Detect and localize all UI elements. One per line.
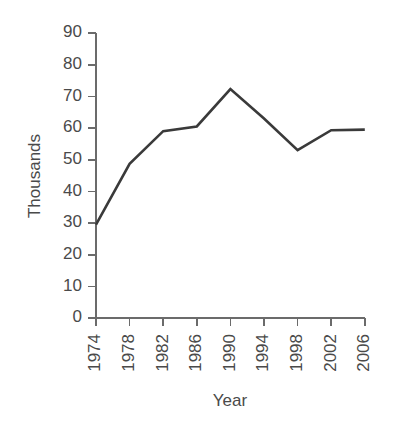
x-tick-label: 2002 <box>321 334 340 372</box>
x-tick-label: 2006 <box>354 334 373 372</box>
y-axis-ticks <box>88 33 96 318</box>
y-tick-label: 60 <box>63 117 82 136</box>
y-tick-label: 50 <box>63 149 82 168</box>
y-tick-label: 80 <box>63 54 82 73</box>
x-axis-ticks <box>96 318 365 326</box>
y-axis-title: Thousands <box>25 134 44 218</box>
y-tick-label: 10 <box>63 276 82 295</box>
y-tick-label: 40 <box>63 181 82 200</box>
y-tick-label: 0 <box>73 307 82 326</box>
x-tick-label: 1998 <box>287 334 306 372</box>
x-tick-label: 1990 <box>220 334 239 372</box>
y-tick-label: 30 <box>63 212 82 231</box>
x-axis-tick-labels: 1974 1978 1982 1986 1990 1994 1998 2002 … <box>85 334 373 372</box>
y-axis-tick-labels: 90 80 70 60 50 40 30 20 10 0 <box>63 22 82 326</box>
x-tick-label: 1994 <box>253 334 272 372</box>
x-tick-label: 1986 <box>186 334 205 372</box>
chart-canvas: 90 80 70 60 50 40 30 20 10 0 1974 1978 <box>0 0 401 431</box>
y-tick-label: 90 <box>63 22 82 41</box>
x-tick-label: 1974 <box>85 334 104 372</box>
y-tick-label: 70 <box>63 86 82 105</box>
x-tick-label: 1982 <box>153 334 172 372</box>
y-tick-label: 20 <box>63 244 82 263</box>
line-chart-figure: 90 80 70 60 50 40 30 20 10 0 1974 1978 <box>0 0 401 431</box>
x-axis-title: Year <box>213 391 248 410</box>
data-series-line <box>96 89 365 225</box>
x-tick-label: 1978 <box>119 334 138 372</box>
